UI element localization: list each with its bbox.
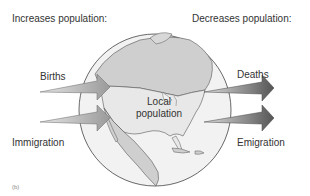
births-label: Births xyxy=(40,71,66,82)
immigration-label: Immigration xyxy=(12,137,64,148)
deaths-label: Deaths xyxy=(237,69,269,80)
increases-heading: Increases population: xyxy=(12,13,107,24)
panel-label: (b) xyxy=(12,184,19,190)
local-population-label: Local population xyxy=(124,96,194,120)
immigration-arrow-icon xyxy=(40,105,110,131)
decreases-heading: Decreases population: xyxy=(192,13,292,24)
emigration-label: Emigration xyxy=(237,137,285,148)
local-population-line2: population xyxy=(124,108,194,120)
local-population-line1: Local xyxy=(124,96,194,108)
